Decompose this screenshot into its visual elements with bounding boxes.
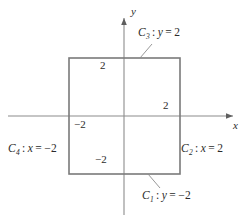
tick-label-y-negative: −2 [95,154,107,165]
c1-leader-line [148,174,160,188]
tick-label-y-positive: 2 [100,60,106,71]
y-axis-label: y [131,6,136,17]
diagram-canvas [0,0,250,221]
curve-c2-value: 2 [217,142,223,154]
y-axis-arrowhead [121,18,127,25]
curve-c2-separator: : [193,142,201,154]
curve-c3-separator: : [150,26,158,38]
curve-c1-value: −2 [178,189,190,201]
curve-c3-subscript: 3 [146,32,150,41]
curve-c1-equals: = [167,189,178,201]
tick-label-x-negative: −2 [74,119,86,130]
x-axis-arrowhead [226,113,233,119]
curve-c2-name: C [181,142,189,154]
curve-c1-separator: : [154,189,162,201]
contour-diagram-figure: y x 2 −2 2 −2 C3 : y = 2 C2 : x = 2 C4 :… [0,0,250,221]
tick-label-x-positive: 2 [163,100,169,111]
curve-c1-name: C [142,189,150,201]
x-axis-label: x [233,120,238,131]
curve-c4-subscript: 4 [16,148,20,157]
curve-label-c2: C2 : x = 2 [181,143,223,155]
curve-c2-equals: = [206,142,217,154]
c3-leader-line [140,44,152,58]
curve-c3-name: C [138,26,146,38]
curve-c1-subscript: 1 [150,195,154,204]
curve-c4-name: C [8,142,16,154]
curve-label-c3: C3 : y = 2 [138,27,180,39]
curve-c4-value: −2 [44,142,56,154]
curve-label-c4: C4 : x = −2 [8,143,57,155]
curve-c4-equals: = [33,142,44,154]
curve-c3-value: 2 [174,26,180,38]
curve-c4-separator: : [20,142,28,154]
curve-label-c1: C1 : y = −2 [142,190,191,202]
curve-c3-equals: = [163,26,174,38]
curve-c2-subscript: 2 [189,148,193,157]
